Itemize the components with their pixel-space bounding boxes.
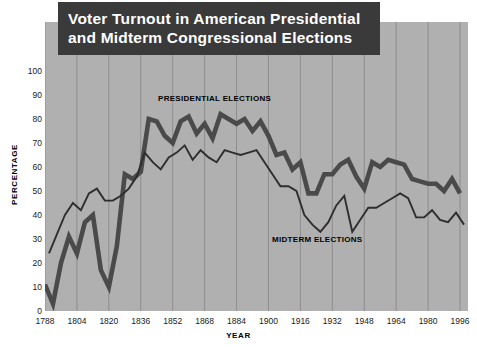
- x-tick-label: 1900: [259, 316, 278, 326]
- page-title: Voter Turnout in American Presidential a…: [58, 2, 380, 55]
- x-axis-ticks: 1788180418201836185218681884190019161932…: [0, 316, 477, 330]
- x-tick-label: 1836: [131, 316, 150, 326]
- x-tick-label: 1868: [195, 316, 214, 326]
- x-tick-label: 1916: [291, 316, 310, 326]
- annotation-midterm: MIDTERM ELECTIONS: [272, 235, 362, 244]
- plot-inner: [45, 22, 468, 311]
- x-tick-label: 1932: [323, 316, 342, 326]
- y-tick-label: 100: [2, 66, 42, 76]
- chart-figure: Voter Turnout in American Presidential a…: [0, 0, 477, 347]
- x-axis-label: YEAR: [0, 331, 477, 340]
- x-tick-label: 1820: [99, 316, 118, 326]
- line-presidential: [45, 114, 460, 304]
- y-tick-label: 50: [2, 186, 42, 196]
- y-tick-label: 60: [2, 162, 42, 172]
- x-tick-label: 1884: [227, 316, 246, 326]
- y-tick-label: 0: [2, 306, 42, 316]
- y-axis-label: PERCENTAGE: [10, 140, 19, 210]
- y-tick-label: 80: [2, 114, 42, 124]
- x-tick-label: 1788: [36, 316, 55, 326]
- x-tick-label: 1852: [163, 316, 182, 326]
- y-axis-ticks: 0102030405060708090100: [0, 0, 42, 347]
- x-tick-label: 1964: [387, 316, 406, 326]
- y-tick-label: 70: [2, 138, 42, 148]
- y-tick-label: 10: [2, 282, 42, 292]
- annotation-presidential: PRESIDENTIAL ELECTIONS: [158, 94, 271, 103]
- series-lines: [45, 22, 468, 311]
- x-tick-label: 1996: [451, 316, 470, 326]
- x-tick-label: 1948: [355, 316, 374, 326]
- y-tick-label: 30: [2, 234, 42, 244]
- x-tick-label: 1980: [419, 316, 438, 326]
- y-tick-label: 90: [2, 90, 42, 100]
- x-tick-label: 1804: [67, 316, 86, 326]
- plot-area: [45, 22, 468, 311]
- title-line-2: and Midterm Congressional Elections: [68, 28, 380, 47]
- y-tick-label: 20: [2, 258, 42, 268]
- y-tick-label: 40: [2, 210, 42, 220]
- title-line-1: Voter Turnout in American Presidential: [68, 9, 380, 28]
